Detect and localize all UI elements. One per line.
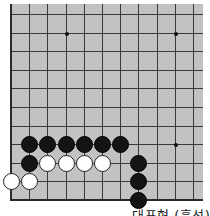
board-left-edge xyxy=(10,4,12,201)
grid-horizontal-line xyxy=(11,51,203,52)
grid-horizontal-line xyxy=(11,14,203,15)
black-stone xyxy=(58,136,75,153)
grid-horizontal-line xyxy=(11,88,203,89)
diagram-caption: 대표형 (흑선) xyxy=(132,205,210,216)
star-point-icon xyxy=(174,143,178,147)
star-point-icon xyxy=(65,32,69,36)
board-bottom-edge xyxy=(10,199,203,201)
white-stone xyxy=(76,155,93,172)
black-stone xyxy=(76,136,93,153)
grid-horizontal-line xyxy=(11,181,203,182)
grid-horizontal-line xyxy=(11,107,203,108)
grid-horizontal-line xyxy=(11,126,203,127)
grid-horizontal-line xyxy=(11,70,203,71)
black-stone xyxy=(21,155,38,172)
star-point-icon xyxy=(174,32,178,36)
white-stone xyxy=(58,155,75,172)
white-stone xyxy=(94,155,111,172)
